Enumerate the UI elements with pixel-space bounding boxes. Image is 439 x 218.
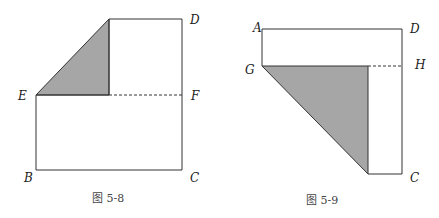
diagram-canvas: D E F B C 图 5-8 A D G H C 图 5-9 xyxy=(0,0,439,218)
label-d: D xyxy=(409,22,420,36)
label-a: A xyxy=(252,21,262,35)
label-d: D xyxy=(189,13,200,27)
label-b: B xyxy=(23,171,33,185)
figure-5-8: D E F B C 图 5-8 xyxy=(17,13,200,205)
shaded-triangle xyxy=(36,19,109,95)
label-c: C xyxy=(190,171,199,185)
label-f: F xyxy=(190,89,200,103)
shaded-triangle xyxy=(262,66,368,174)
figure-5-9: A D G H C 图 5-9 xyxy=(245,21,426,207)
label-e: E xyxy=(17,89,27,103)
caption-5-9: 图 5-9 xyxy=(306,194,338,207)
caption-5-8: 图 5-8 xyxy=(92,192,124,205)
label-c: C xyxy=(410,171,419,185)
label-h: H xyxy=(414,58,426,72)
label-g: G xyxy=(245,63,255,77)
